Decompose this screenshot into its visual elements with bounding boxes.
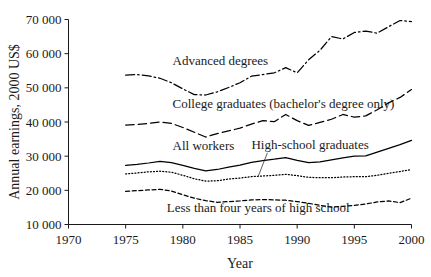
series-label-college-graduates-bachelor-s-degree-only: College graduates (bachelor's degree onl… — [173, 96, 395, 111]
y-tick-label: 60 000 — [26, 46, 62, 61]
series-label-high-school-graduates: High-school graduates — [251, 137, 368, 152]
x-tick-label: 1970 — [56, 232, 82, 247]
series-label-less-than-four-years-of-high-school: Less than four years of high school — [167, 200, 350, 215]
y-tick-label: 50 000 — [26, 80, 62, 95]
y-axis-title: Annual earnings, 2000 US$ — [7, 44, 22, 200]
axes — [69, 20, 412, 225]
y-tick-label: 70 000 — [26, 12, 62, 27]
series-line-advanced-degrees — [126, 21, 412, 95]
annotations: Advanced degreesCollege graduates (bache… — [167, 53, 395, 215]
chart-container: 10 00020 00030 00040 00050 00060 00070 0… — [0, 0, 431, 277]
y-tick-label: 40 000 — [26, 115, 62, 130]
x-tick-label: 1990 — [284, 232, 310, 247]
series-group — [126, 21, 412, 208]
y-axis: 10 00020 00030 00040 00050 00060 00070 0… — [26, 12, 69, 232]
series-label-advanced-degrees: Advanced degrees — [173, 53, 269, 68]
y-tick-label: 30 000 — [26, 149, 62, 164]
y-tick-label: 10 000 — [26, 217, 62, 232]
series-line-high-school-graduates — [126, 169, 412, 181]
series-label-all-workers: All workers — [173, 138, 235, 153]
x-tick-label: 1985 — [227, 232, 253, 247]
y-tick-label: 20 000 — [26, 183, 62, 198]
line-chart: 10 00020 00030 00040 00050 00060 00070 0… — [0, 0, 431, 277]
x-axis: 1970197519801985199019952000 — [56, 225, 425, 247]
axis-spines — [69, 20, 412, 225]
high-school-graduates-leader-line — [258, 153, 267, 176]
x-axis-title: Year — [227, 256, 253, 271]
x-tick-label: 1975 — [113, 232, 139, 247]
x-tick-label: 2000 — [399, 232, 425, 247]
x-tick-label: 1980 — [170, 232, 196, 247]
x-tick-label: 1995 — [341, 232, 367, 247]
